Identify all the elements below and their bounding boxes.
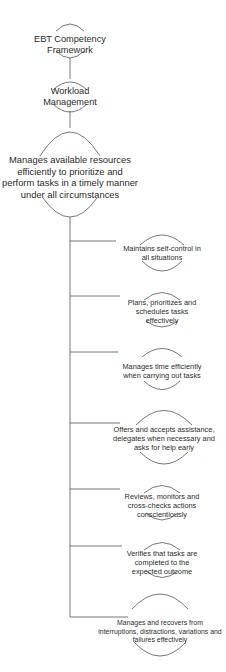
behaviour-node-6: Verifies that tasks are completed to the… bbox=[112, 549, 212, 576]
behaviour-line: cross-checks actions bbox=[112, 501, 212, 510]
description-node-line: perform tasks in a timely manner bbox=[0, 177, 140, 189]
behaviour-line: expected outcome bbox=[112, 567, 212, 576]
competency-node-line: Workload bbox=[20, 86, 120, 97]
description-node: Manages available resources efficiently … bbox=[0, 154, 140, 200]
root-node: EBT Competency Framework bbox=[20, 34, 120, 56]
behaviour-line: all situations bbox=[112, 253, 212, 262]
behaviour-node-1: Maintains self-control in all situations bbox=[112, 244, 212, 262]
description-node-top-arc bbox=[40, 132, 100, 156]
behaviour-line: Reviews, monitors and bbox=[112, 492, 212, 501]
behaviour-line: when carrying out tasks bbox=[112, 371, 212, 380]
behaviour-line: schedules tasks bbox=[112, 307, 212, 316]
description-node-line: under all circumstances bbox=[0, 189, 140, 201]
behaviour-node-5: Reviews, monitors and cross-checks actio… bbox=[112, 492, 212, 519]
behaviour-line: delegates when necessary and bbox=[104, 434, 224, 443]
behaviour-line: Manages and recovers from bbox=[90, 619, 226, 628]
behaviour-node-3: Manages time efficiently when carrying o… bbox=[112, 362, 212, 380]
behaviour-node-4: Offers and accepts assistance, delegates… bbox=[104, 425, 224, 452]
description-node-bottom-arc bbox=[43, 198, 97, 217]
competency-node-line: Management bbox=[20, 97, 120, 108]
behaviour-line: interruptions, distractions, variations … bbox=[90, 628, 226, 637]
behaviour-line: Manages time efficiently bbox=[112, 362, 212, 371]
competency-node: Workload Management bbox=[20, 86, 120, 108]
description-node-line: Manages available resources bbox=[0, 154, 140, 166]
behaviour-line: effectively bbox=[112, 316, 212, 325]
description-node-line: efficiently to prioritize and bbox=[0, 166, 140, 178]
root-node-line: EBT Competency bbox=[20, 34, 120, 45]
behaviour-node-2: Plans, prioritizes and schedules tasks e… bbox=[112, 298, 212, 325]
behaviour-line: asks for help early bbox=[104, 443, 224, 452]
behaviour-node-7: Manages and recovers from interruptions,… bbox=[90, 619, 226, 645]
root-node-top-arc bbox=[56, 24, 84, 31]
behaviour-line: completed to the bbox=[112, 558, 212, 567]
behaviour-line: Offers and accepts assistance, bbox=[104, 425, 224, 434]
behaviour-line: Maintains self-control in bbox=[112, 244, 212, 253]
behaviour-line: Plans, prioritizes and bbox=[112, 298, 212, 307]
behaviour-line: Verifies that tasks are bbox=[112, 549, 212, 558]
behaviour-line: failures effectively bbox=[90, 636, 226, 645]
root-node-line: Framework bbox=[20, 45, 120, 56]
behaviour-line: conscientiously bbox=[112, 510, 212, 519]
